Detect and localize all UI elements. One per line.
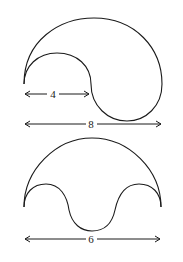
figure-spiral: 4 8 (24, 18, 162, 130)
outer-semicircle-arc (24, 138, 161, 207)
dimension-label-6: 6 (88, 233, 94, 245)
diagram: 4 8 6 (0, 0, 183, 262)
dimension-label-4: 4 (50, 88, 56, 100)
large-semicircle-arc (24, 18, 162, 84)
small-semicircle-arc (24, 53, 91, 84)
dimension-label-8: 8 (88, 118, 94, 130)
figure-arch: 6 (24, 138, 161, 245)
wavy-bottom-curve (24, 184, 161, 231)
dimension-arrow-4: 4 (25, 88, 89, 100)
bottom-semicircle-arc (91, 84, 162, 121)
dimension-arrow-8: 8 (25, 118, 161, 130)
dimension-arrow-6: 6 (25, 233, 160, 245)
